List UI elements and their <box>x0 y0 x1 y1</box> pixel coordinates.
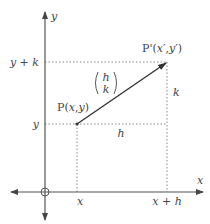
y-axis-label: y <box>50 10 58 23</box>
vector-k: k <box>103 83 110 96</box>
segment-h-label: h <box>117 127 124 140</box>
y-plus-k-label: y + k <box>9 56 39 69</box>
x-axis-label: x <box>197 174 204 187</box>
point-p-label: P(x,y) <box>57 101 89 114</box>
segment-k-label: k <box>173 86 180 99</box>
translation-vector <box>77 63 166 124</box>
translation-diagram: y x y + k y x x + h P(x,y) P'(x′,y′) h k… <box>0 0 210 224</box>
x-plus-h-label: x + h <box>152 195 182 208</box>
point-p-prime-label: P'(x′,y′) <box>142 42 182 55</box>
point-p <box>75 122 78 125</box>
y-label: y <box>32 118 40 131</box>
x-label: x <box>77 195 84 208</box>
column-vector: h k <box>96 71 117 96</box>
